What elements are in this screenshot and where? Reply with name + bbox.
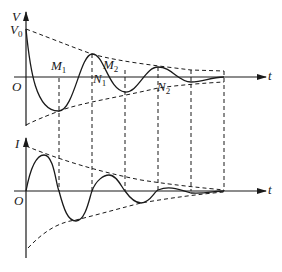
v0-label: V0 <box>10 23 22 39</box>
origin-label-top: O <box>12 80 21 93</box>
lower-envelope-top <box>26 82 224 125</box>
i-axis-label: I <box>15 137 19 150</box>
vertical-guides <box>59 54 224 191</box>
point-m2-label: M2 <box>103 58 118 74</box>
current-graph <box>14 138 266 258</box>
damped-oscillation-diagram: V V0 O t M1 N1 M2 N2 I O t <box>0 0 282 272</box>
point-n1-label: N1 <box>93 72 106 88</box>
diagram-canvas <box>0 0 282 272</box>
point-m1-label: M1 <box>51 59 66 75</box>
point-n2-label: N2 <box>157 80 170 96</box>
t-axis-label-top: t <box>268 69 272 82</box>
lower-envelope-bottom <box>28 192 224 248</box>
origin-label-bottom: O <box>14 194 23 207</box>
t-axis-label-bottom: t <box>268 183 272 196</box>
